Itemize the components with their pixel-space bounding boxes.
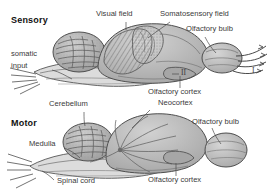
label-somatic-input-line2: input bbox=[11, 62, 27, 70]
label-medulla: Medulla bbox=[29, 140, 56, 148]
label-olfactory-cortex-sensory: Olfactory cortex bbox=[148, 88, 201, 96]
sensory-olfactory-bulb bbox=[202, 43, 242, 73]
label-neocortex: Neocortex bbox=[158, 99, 193, 107]
label-visual-field: Visual field bbox=[96, 10, 133, 18]
motor-olfactory-bulb bbox=[205, 133, 247, 167]
motor-hub-node bbox=[118, 148, 122, 152]
label-cerebellum: Cerebellum bbox=[49, 100, 88, 108]
motor-output-fibers bbox=[7, 154, 36, 188]
label-olfactory-bulb-sensory: Olfactory bulb bbox=[186, 25, 233, 33]
label-olfactory-bulb-motor: Olfactory bulb bbox=[192, 118, 239, 126]
label-cranial-nerve-i: I bbox=[252, 67, 255, 75]
sensory-cerebellum bbox=[53, 32, 105, 72]
panel-heading-sensory: Sensory bbox=[11, 16, 48, 25]
label-spinal-cord: Spinal cord bbox=[57, 177, 95, 185]
panel-heading-motor: Motor bbox=[11, 119, 37, 128]
label-somatosensory-field: Somatosensory field bbox=[160, 10, 229, 18]
label-somatic-input-line1: somatic bbox=[11, 50, 37, 58]
label-olfactory-cortex-motor: Olfactory cortex bbox=[148, 176, 201, 184]
motor-cerebellum bbox=[63, 123, 113, 161]
brain-anatomy-figure: Sensory somatic input Visual field Somat… bbox=[0, 0, 268, 194]
label-cranial-nerve-ii: II bbox=[181, 69, 186, 77]
